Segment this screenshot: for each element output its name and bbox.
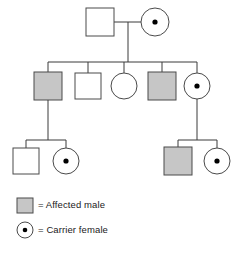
generation-1-group [86, 8, 169, 62]
legend-carrier-dot-icon [23, 228, 28, 233]
carrier-dot-icon-iii-4 [214, 158, 219, 163]
legend-carrier-female-label: = Carrier female [38, 224, 108, 235]
pedigree-chart: = Affected male = Carrier female [0, 0, 243, 255]
carrier-dot-icon-i-2 [152, 19, 157, 24]
individual-ii-4-affected-male[interactable] [148, 72, 176, 100]
generation-3-group [13, 140, 230, 175]
generation-2-group [34, 62, 210, 140]
individual-ii-3-unaffected-female[interactable] [111, 73, 137, 99]
legend-affected-male-swatch [17, 198, 33, 213]
individual-ii-1-affected-male[interactable] [34, 72, 62, 100]
individual-iii-1-unaffected-male[interactable] [13, 148, 39, 174]
carrier-dot-icon-iii-2 [63, 158, 68, 163]
individual-ii-2-unaffected-male[interactable] [75, 73, 101, 99]
individual-i-1-unaffected-male[interactable] [86, 8, 114, 36]
carrier-dot-icon-ii-5 [194, 83, 199, 88]
pedigree-diagram [0, 0, 243, 255]
legend-group [17, 198, 33, 238]
legend-affected-male-label: = Affected male [38, 199, 105, 210]
individual-iii-3-affected-male[interactable] [164, 147, 192, 175]
